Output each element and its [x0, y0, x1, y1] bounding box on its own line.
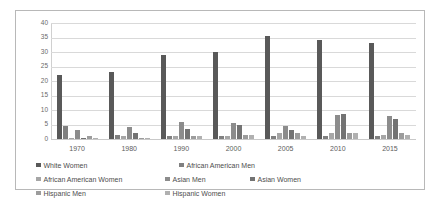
bar[interactable] — [81, 138, 86, 139]
bar[interactable] — [323, 136, 328, 139]
bar[interactable] — [399, 133, 404, 139]
bar[interactable] — [375, 136, 380, 139]
y-tick-label: 0 — [26, 136, 48, 143]
legend-item-label: Asian Women — [258, 176, 301, 183]
bar[interactable] — [139, 138, 144, 139]
x-tick-label: 2005 — [260, 142, 312, 156]
chart-frame: 0510152025303540 19701980199020002005201… — [15, 10, 425, 190]
x-tick-label: 2000 — [207, 142, 259, 156]
y-tick-label: 30 — [26, 49, 48, 56]
bar[interactable] — [329, 133, 334, 139]
legend-item-label: Hispanic Men — [44, 190, 86, 197]
bar[interactable] — [387, 116, 392, 139]
legend-item-label: Hispanic Women — [173, 190, 226, 197]
bar[interactable] — [277, 133, 282, 139]
bar[interactable] — [265, 36, 270, 139]
bar[interactable] — [133, 133, 138, 139]
legend-item[interactable]: White Women — [36, 158, 179, 172]
bar[interactable] — [335, 115, 340, 139]
legend-item[interactable]: Asian Men — [165, 172, 250, 186]
bar[interactable] — [347, 133, 352, 139]
x-tick-label: 2010 — [312, 142, 364, 156]
legend-item[interactable]: Asian Women — [250, 172, 393, 186]
bar[interactable] — [243, 135, 248, 139]
legend-item[interactable]: Hispanic Men — [36, 186, 165, 200]
legend-swatch-icon — [36, 177, 41, 182]
bar[interactable] — [393, 119, 398, 139]
bar-group-1970 — [51, 23, 103, 139]
bar[interactable] — [197, 136, 202, 139]
bar[interactable] — [341, 114, 346, 139]
legend-item-label: White Women — [44, 162, 88, 169]
bar[interactable] — [93, 138, 98, 139]
legend-swatch-icon — [165, 177, 170, 182]
bar[interactable] — [75, 130, 80, 139]
bar[interactable] — [87, 136, 92, 139]
bar[interactable] — [115, 135, 120, 139]
y-tick-label: 35 — [26, 34, 48, 41]
plot-area — [51, 23, 416, 139]
bar[interactable] — [173, 136, 178, 139]
bar[interactable] — [57, 75, 62, 139]
x-tick-label: 2015 — [364, 142, 416, 156]
bar[interactable] — [213, 52, 218, 139]
bar[interactable] — [289, 130, 294, 139]
y-tick-label: 20 — [26, 78, 48, 85]
bar[interactable] — [295, 133, 300, 139]
x-tick-label: 1970 — [51, 142, 103, 156]
bar[interactable] — [381, 135, 386, 139]
bar[interactable] — [63, 126, 68, 139]
legend-item[interactable]: African American Men — [179, 158, 308, 172]
legend-swatch-icon — [36, 191, 41, 196]
bar[interactable] — [353, 133, 358, 139]
bar-group-2015 — [364, 23, 416, 139]
bar[interactable] — [225, 136, 230, 139]
bar[interactable] — [185, 129, 190, 139]
bar-group-1990 — [155, 23, 207, 139]
x-tick-label: 1990 — [155, 142, 207, 156]
legend-swatch-icon — [36, 163, 41, 168]
bar[interactable] — [249, 135, 254, 139]
bar[interactable] — [405, 135, 410, 139]
bar-group-2010 — [312, 23, 364, 139]
chart-legend: White WomenAfrican American MenAfrican A… — [36, 158, 408, 200]
y-tick-label: 5 — [26, 121, 48, 128]
y-tick-label: 25 — [26, 63, 48, 70]
bar[interactable] — [161, 55, 166, 139]
bar-group-2000 — [207, 23, 259, 139]
bar[interactable] — [69, 138, 74, 139]
bar[interactable] — [231, 123, 236, 139]
legend-swatch-icon — [250, 177, 255, 182]
y-tick-label: 15 — [26, 92, 48, 99]
bar[interactable] — [283, 126, 288, 139]
bar[interactable] — [237, 125, 242, 140]
bar[interactable] — [145, 138, 150, 139]
bar[interactable] — [191, 136, 196, 139]
bar[interactable] — [301, 136, 306, 139]
gridline-0 — [51, 139, 416, 140]
bar[interactable] — [167, 136, 172, 139]
y-tick-label: 40 — [26, 20, 48, 27]
bar[interactable] — [271, 136, 276, 139]
bar[interactable] — [121, 136, 126, 139]
x-tick-label: 1980 — [103, 142, 155, 156]
bar-group-2005 — [260, 23, 312, 139]
y-tick-label: 10 — [26, 107, 48, 114]
bar[interactable] — [219, 136, 224, 139]
bar[interactable] — [179, 122, 184, 139]
bar-group-1980 — [103, 23, 155, 139]
legend-item-label: African American Women — [44, 176, 123, 183]
legend-swatch-icon — [165, 191, 170, 196]
bar[interactable] — [369, 43, 374, 139]
legend-item[interactable]: African American Women — [36, 172, 165, 186]
y-axis-tick-labels: 0510152025303540 — [24, 23, 48, 139]
legend-swatch-icon — [179, 163, 184, 168]
bar[interactable] — [317, 40, 322, 139]
bar[interactable] — [127, 127, 132, 139]
x-axis-tick-labels: 1970198019902000200520102015 — [51, 142, 416, 156]
legend-item-label: African American Men — [187, 162, 255, 169]
legend-item-label: Asian Men — [173, 176, 206, 183]
legend-item[interactable]: Hispanic Women — [165, 186, 250, 200]
bar-groups — [51, 23, 416, 139]
bar[interactable] — [109, 72, 114, 139]
